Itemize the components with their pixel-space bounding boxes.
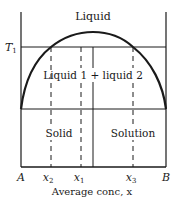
tick-x1: x1 (74, 171, 85, 185)
tick-x3: x3 (126, 171, 137, 185)
region-liquid-label: Liquid (75, 10, 111, 23)
axis-label-a: A (16, 171, 25, 184)
region-two-liquid-label: Liquid 1 + liquid 2 (43, 69, 143, 81)
t1-label: T1 (5, 41, 17, 55)
region-solution-label: Solution (111, 127, 156, 139)
region-solid-label: Solid (46, 127, 73, 139)
phase-diagram: Liquid Liquid 1 + liquid 2 Solid Solutio… (0, 0, 176, 198)
x-axis-title: Average conc, x (51, 186, 133, 197)
axis-label-b: B (161, 171, 170, 184)
tick-x2: x2 (43, 171, 54, 185)
